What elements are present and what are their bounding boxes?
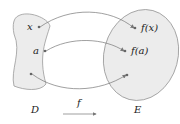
domain-label: D <box>30 104 39 115</box>
label-fa: f(a) <box>130 45 149 56</box>
label-fx: f(x) <box>140 22 158 33</box>
label-x: x <box>27 21 33 32</box>
point-fx <box>134 27 137 30</box>
point-third-image <box>126 74 129 77</box>
function-diagram: x a f(x) f(a) D E f <box>0 0 180 124</box>
label-a: a <box>33 45 39 56</box>
point-a <box>44 50 47 53</box>
point-third <box>30 73 33 76</box>
function-label: f <box>76 97 83 108</box>
codomain-label: E <box>133 104 142 115</box>
point-x <box>38 26 41 29</box>
point-fa <box>124 50 127 53</box>
